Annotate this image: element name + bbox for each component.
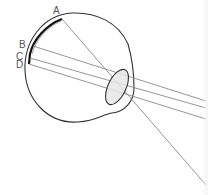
- retina-inner-arc: [32, 21, 61, 54]
- label-b: B: [19, 39, 26, 50]
- lens: [101, 66, 133, 108]
- label-d: D: [16, 59, 23, 70]
- eye-diagram: A B C D: [0, 0, 208, 195]
- retina-arc: [29, 19, 62, 64]
- label-a: A: [53, 5, 60, 16]
- right-edge-fade: [202, 0, 208, 195]
